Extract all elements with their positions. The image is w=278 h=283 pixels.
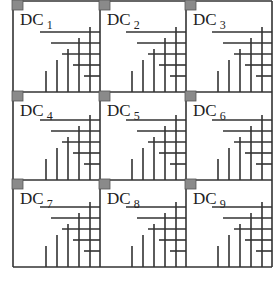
datacenter-label: DC2 — [107, 10, 140, 32]
corner-marker-icon — [99, 179, 110, 189]
datacenter-cell-2: DC2 — [107, 10, 186, 92]
datacenter-cell-9: DC9 — [193, 189, 272, 267]
datacenter-label: DC4 — [20, 101, 53, 123]
datacenter-label: DC1 — [20, 10, 53, 32]
datacenter-cell-8: DC8 — [107, 189, 186, 267]
datacenter-label: DC9 — [193, 189, 226, 211]
corner-marker-icon — [185, 0, 196, 10]
staircase-grid-icon — [40, 27, 100, 92]
corner-marker-icon — [185, 91, 196, 101]
datacenter-label: DC8 — [107, 189, 140, 211]
corner-marker-icon — [185, 179, 196, 189]
grid-lines — [13, 1, 272, 267]
staircase-grid-icon — [40, 115, 100, 180]
staircase-grid-icon — [40, 202, 100, 267]
corner-marker-icon — [12, 0, 23, 10]
datacenter-label: DC6 — [193, 101, 226, 123]
staircase-grid-icon — [212, 27, 272, 92]
datacenter-label: DC3 — [193, 10, 226, 32]
staircase-grid-icon — [212, 115, 272, 180]
datacenter-cell-5: DC5 — [107, 101, 186, 180]
datacenter-cell-6: DC6 — [193, 101, 272, 180]
datacenter-cell-7: DC7 — [20, 189, 100, 267]
corner-marker-icon — [99, 0, 110, 10]
corner-marker-icon — [99, 91, 110, 101]
datacenter-cell-4: DC4 — [20, 101, 100, 180]
corner-marker-icon — [12, 179, 23, 189]
datacenter-grid-diagram: DC1DC2DC3DC4DC5DC6DC7DC8DC9 — [0, 0, 278, 283]
staircase-grid-icon — [126, 27, 186, 92]
datacenter-label: DC7 — [20, 189, 53, 211]
staircase-grid-icon — [126, 115, 186, 180]
datacenter-cell-3: DC3 — [193, 10, 272, 92]
staircase-grid-icon — [126, 202, 186, 267]
datacenter-cell-1: DC1 — [20, 10, 100, 92]
datacenter-label: DC5 — [107, 101, 140, 123]
staircase-grid-icon — [212, 202, 272, 267]
corner-marker-icon — [12, 91, 23, 101]
